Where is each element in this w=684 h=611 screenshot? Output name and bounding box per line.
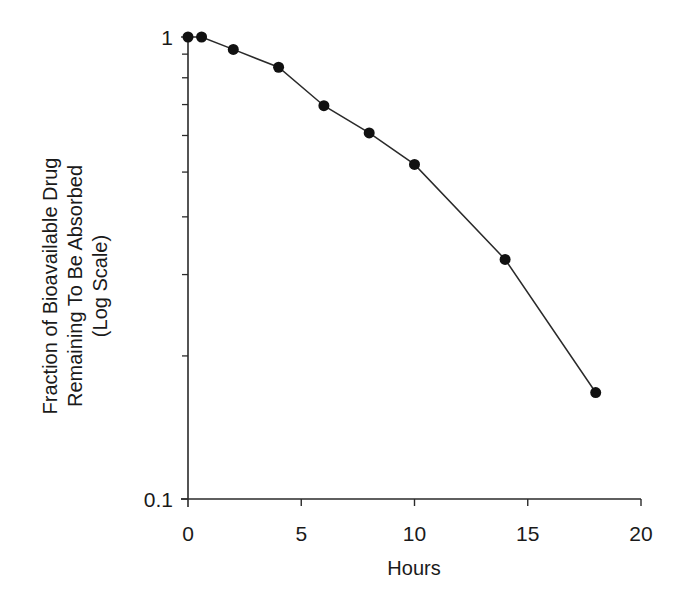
x-tick-label: 20 [629,522,652,545]
x-tick-label: 15 [516,522,539,545]
y-tick-label: 0.1 [144,488,173,511]
data-point-marker [364,127,375,138]
data-point-marker [318,100,329,111]
data-point-marker [590,387,601,398]
data-point-marker [228,44,239,55]
series-line [188,37,596,393]
data-point-marker [183,32,194,43]
y-axis-title-line: Fraction of Bioavailable Drug [39,158,61,415]
chart: Fraction of Bioavailable DrugRemaining T… [0,0,684,611]
y-axis-title: Fraction of Bioavailable DrugRemaining T… [39,158,111,415]
y-tick-label: 1 [161,26,173,49]
data-point-marker [196,32,207,43]
data-point-marker [273,62,284,73]
y-axis-title-line: Remaining To Be Absorbed [64,165,86,407]
x-tick-label: 5 [295,522,307,545]
data-point-marker [409,159,420,170]
y-axis-title-line: (Log Scale) [89,235,111,337]
data-point-marker [500,254,511,265]
axes [181,37,641,507]
axis-ticks: 051015200.11 [144,26,653,545]
x-tick-label: 0 [182,522,194,545]
y-axis-title-group: Fraction of Bioavailable DrugRemaining T… [39,158,111,415]
data-series [183,32,602,399]
x-axis-title: Hours [387,557,440,579]
x-tick-label: 10 [403,522,426,545]
